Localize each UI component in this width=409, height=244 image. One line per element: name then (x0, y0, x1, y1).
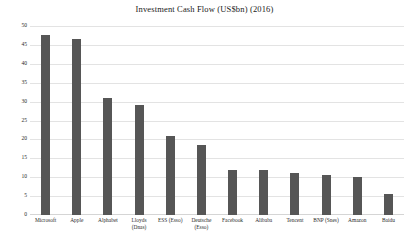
y-axis-tick-label: 10 (3, 174, 27, 180)
y-axis: 05101520253035404550 (0, 26, 27, 215)
x-axis-tick-label: ESS (Esso) (155, 217, 186, 224)
bar[interactable] (166, 136, 175, 215)
bar-column[interactable] (103, 26, 112, 215)
y-axis-tick-label: 35 (3, 80, 27, 86)
y-axis-tick-label: 50 (3, 23, 27, 29)
bar-column[interactable] (228, 26, 237, 215)
bar[interactable] (384, 194, 393, 215)
x-axis-tick-label: Baidu (373, 217, 404, 224)
bar-column[interactable] (290, 26, 299, 215)
bar-column[interactable] (384, 26, 393, 215)
x-axis-tick-label: BNP (Snes) (311, 217, 342, 224)
bar-chart: Investment Cash Flow (US$bn) (2016) 0510… (0, 0, 409, 244)
bar[interactable] (290, 173, 299, 215)
x-axis-labels: MicrosoftAppleAlphabetLloyds (Dnas)ESS (… (30, 217, 404, 244)
x-axis-tick-label: Alibaba (248, 217, 279, 224)
gridline (30, 139, 404, 140)
y-axis-tick-label: 15 (3, 155, 27, 161)
bar-column[interactable] (135, 26, 144, 215)
gridline (30, 158, 404, 159)
x-axis-tick-label: Amazon (342, 217, 373, 224)
bar[interactable] (135, 105, 144, 215)
y-axis-tick-label: 45 (3, 42, 27, 48)
gridline (30, 64, 404, 65)
gridline (30, 83, 404, 84)
y-axis-tick-label: 5 (3, 193, 27, 199)
chart-title: Investment Cash Flow (US$bn) (2016) (0, 4, 409, 14)
gridline (30, 26, 404, 27)
x-axis-tick-label: Microsoft (30, 217, 61, 224)
x-axis-tick-label: Deutsche (Esso) (186, 217, 217, 232)
y-axis-tick-label: 0 (3, 212, 27, 218)
x-axis-tick-label: Tencent (279, 217, 310, 224)
bar-column[interactable] (353, 26, 362, 215)
y-axis-tick-label: 25 (3, 118, 27, 124)
x-axis-line (30, 214, 404, 215)
bar[interactable] (353, 177, 362, 215)
gridline (30, 196, 404, 197)
bar[interactable] (41, 35, 50, 215)
x-axis-tick-label: Lloyds (Dnas) (124, 217, 155, 232)
bar-column[interactable] (72, 26, 81, 215)
x-axis-tick-label: Apple (61, 217, 92, 224)
bar[interactable] (72, 39, 81, 215)
gridline (30, 45, 404, 46)
x-axis-tick-label: Facebook (217, 217, 248, 224)
bar[interactable] (259, 170, 268, 215)
bar-column[interactable] (322, 26, 331, 215)
gridline (30, 121, 404, 122)
bar[interactable] (103, 98, 112, 215)
y-axis-tick-label: 40 (3, 61, 27, 67)
bar-column[interactable] (197, 26, 206, 215)
bar-column[interactable] (41, 26, 50, 215)
y-axis-tick-label: 30 (3, 99, 27, 105)
bar-column[interactable] (166, 26, 175, 215)
gridline (30, 102, 404, 103)
plot-area (30, 26, 404, 215)
bar[interactable] (197, 145, 206, 215)
x-axis-tick-label: Alphabet (92, 217, 123, 224)
bar[interactable] (322, 175, 331, 215)
gridline (30, 177, 404, 178)
bar-column[interactable] (259, 26, 268, 215)
bar[interactable] (228, 170, 237, 215)
y-axis-tick-label: 20 (3, 136, 27, 142)
